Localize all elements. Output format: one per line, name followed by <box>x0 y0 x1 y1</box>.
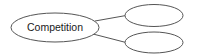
central-node-label: Competition <box>27 21 83 33</box>
connector-top <box>95 16 126 22</box>
child-node-top <box>125 5 183 27</box>
concept-map: Competition <box>0 0 198 55</box>
connector-bottom <box>93 34 126 43</box>
child-node-bottom <box>125 32 183 53</box>
